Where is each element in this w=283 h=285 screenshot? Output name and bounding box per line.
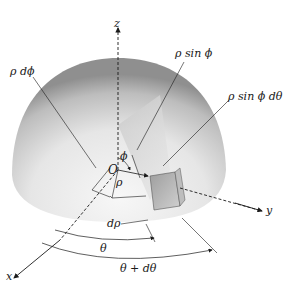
volume-element bbox=[150, 172, 180, 210]
x-axis-label: x bbox=[6, 271, 12, 282]
theta-plus-dtheta-label: θ + dθ bbox=[120, 263, 157, 274]
spherical-coordinates-diagram: z y x O ρ dϕ ρ sin ϕ ρ sin ϕ dθ ϕ ρ dρ θ… bbox=[0, 0, 283, 285]
theta-label: θ bbox=[100, 243, 107, 254]
rho-dphi-label: ρ dϕ bbox=[10, 66, 35, 77]
rho-label: ρ bbox=[116, 177, 122, 188]
rho-sin-phi-label: ρ sin ϕ bbox=[175, 48, 212, 59]
rho-sin-phi-dtheta-label: ρ sin ϕ dθ bbox=[228, 91, 282, 102]
z-axis-label: z bbox=[114, 18, 120, 29]
phi-label: ϕ bbox=[120, 151, 128, 162]
diagram-canvas bbox=[0, 0, 283, 285]
y-axis-label: y bbox=[266, 205, 272, 216]
drho-label: dρ bbox=[107, 218, 121, 229]
origin-label: O bbox=[108, 164, 118, 176]
